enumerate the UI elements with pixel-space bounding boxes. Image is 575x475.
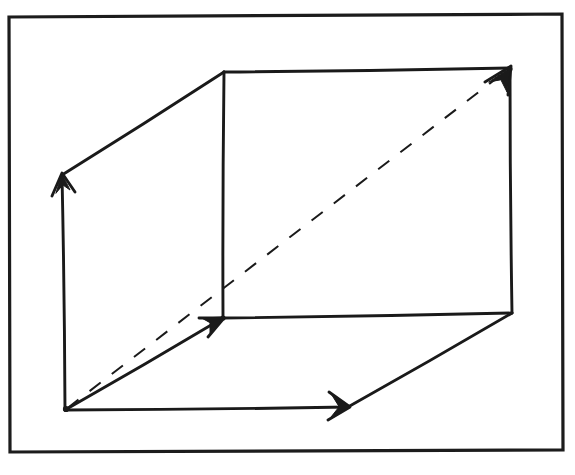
diagram-canvas xyxy=(0,0,575,475)
joint-depth xyxy=(220,315,225,320)
joint-top-back-right xyxy=(507,66,512,71)
edge-top-front-left-to-depth xyxy=(223,72,224,318)
joint-origin xyxy=(63,406,69,412)
vector-cube-figure xyxy=(0,0,575,475)
